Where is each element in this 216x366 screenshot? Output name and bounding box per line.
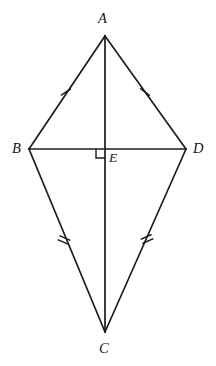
tick-AD (140, 88, 150, 95)
vertex-label-c: C (99, 341, 109, 356)
vertex-label-a: A (98, 11, 107, 26)
kite-diagram-svg (0, 0, 216, 366)
segment-CD (105, 149, 186, 332)
geometry-figure: A B D E C (0, 0, 216, 366)
segment-AB (29, 36, 105, 149)
vertex-label-d: D (193, 141, 203, 156)
vertex-label-b: B (12, 141, 21, 156)
vertex-label-e: E (109, 151, 117, 165)
segment-BC (29, 149, 105, 332)
right-angle-icon (96, 149, 105, 158)
